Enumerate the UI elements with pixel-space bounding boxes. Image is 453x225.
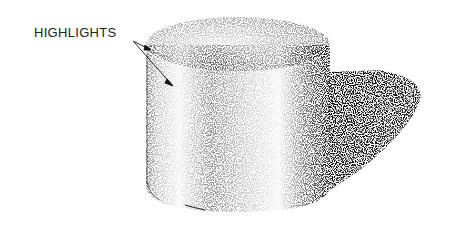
highlights-label: HIGHLIGHTS [34, 25, 116, 40]
cylinder-top [146, 17, 330, 71]
illustration: HIGHLIGHTS [0, 0, 453, 225]
cast-shadow [328, 70, 421, 190]
